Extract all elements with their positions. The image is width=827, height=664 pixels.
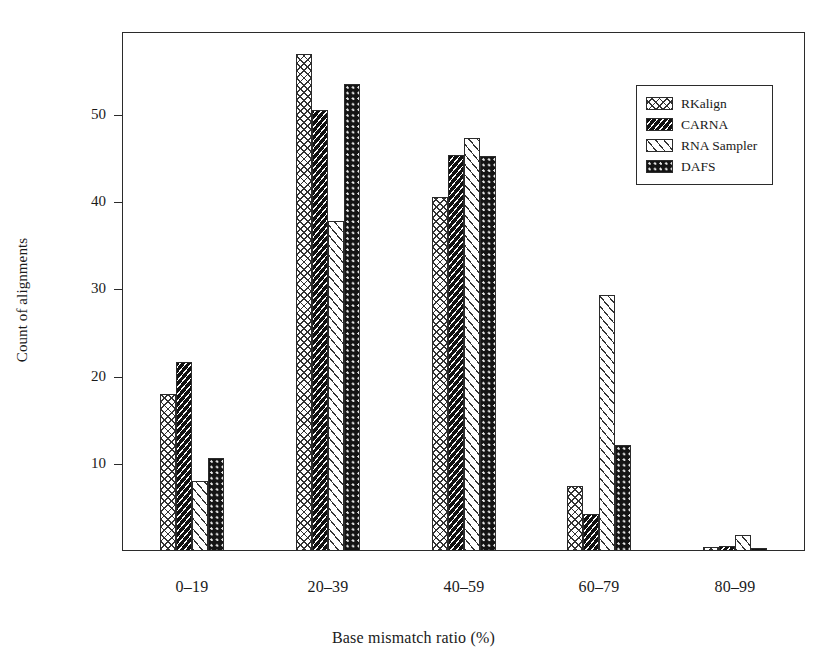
legend-label: CARNA — [681, 118, 728, 132]
y-axis-tick-label: 10 — [60, 456, 106, 471]
x-axis-tick-label: 40–59 — [404, 578, 524, 596]
y-axis-tick-label: 40 — [60, 194, 106, 209]
legend-label: RNA Sampler — [681, 139, 757, 153]
bar — [567, 486, 583, 551]
bar — [464, 138, 480, 551]
legend-item: CARNA — [646, 114, 772, 135]
bar — [735, 535, 751, 551]
legend-item: DAFS — [646, 156, 772, 177]
legend-swatch-icon — [646, 160, 673, 173]
bar — [480, 156, 496, 551]
legend-item: RKalign — [646, 93, 772, 114]
x-axis-tick-label: 80–99 — [675, 578, 795, 596]
x-axis-tick-label: 0–19 — [132, 578, 252, 596]
bar — [192, 481, 208, 551]
bar — [583, 514, 599, 551]
bar — [615, 445, 631, 551]
bar — [312, 110, 328, 551]
bar — [703, 547, 719, 551]
y-axis-tick-label: 50 — [60, 107, 106, 122]
legend: RKalignCARNARNA SamplerDAFS — [636, 85, 773, 185]
legend-swatch-icon — [646, 118, 673, 131]
bar — [448, 155, 464, 551]
legend-item: RNA Sampler — [646, 135, 772, 156]
y-axis-title: Count of alignments — [14, 170, 36, 430]
bar — [719, 546, 735, 551]
bar — [344, 84, 360, 551]
legend-label: DAFS — [681, 160, 716, 174]
y-axis-tick-label: 20 — [60, 369, 106, 384]
bar-chart: Count of alignments 1020304050 0–1920–39… — [0, 0, 827, 664]
x-axis-title: Base mismatch ratio (%) — [0, 629, 827, 647]
legend-swatch-icon — [646, 97, 673, 110]
legend-label: RKalign — [681, 97, 727, 111]
bar — [296, 54, 312, 551]
bar — [176, 362, 192, 551]
bar — [208, 458, 224, 551]
y-axis-tick-label: 30 — [60, 281, 106, 296]
legend-swatch-icon — [646, 139, 673, 152]
bar — [599, 295, 615, 551]
bar — [432, 197, 448, 551]
x-axis-tick-label: 20–39 — [268, 578, 388, 596]
x-axis-tick-label: 60–79 — [539, 578, 659, 596]
bar — [160, 394, 176, 551]
bar — [328, 221, 344, 551]
bar — [751, 548, 767, 551]
